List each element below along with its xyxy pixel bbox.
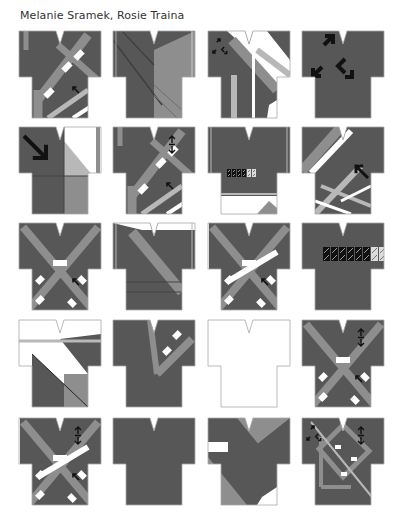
garment-14 (112, 319, 196, 409)
caption-authors: Melanie Sramek, Rosie Traina (20, 9, 184, 22)
garment-15 (207, 319, 291, 409)
garment-16-illustration (301, 319, 385, 409)
garment-14-illustration (112, 319, 196, 409)
garment-17-illustration (18, 417, 102, 507)
garment-7 (207, 126, 291, 216)
garment-13 (18, 319, 102, 409)
garment-7-illustration (207, 126, 291, 216)
garment-5-illustration (18, 126, 102, 216)
garment-6-illustration (112, 126, 196, 216)
garment-8 (301, 126, 385, 216)
garment-10-illustration (112, 222, 196, 312)
garment-2-illustration (112, 30, 196, 120)
garment-16 (301, 319, 385, 409)
garment-4-illustration (301, 30, 385, 120)
garment-20 (301, 417, 385, 507)
garment-18 (112, 417, 196, 507)
garment-5 (18, 126, 102, 216)
garment-6 (112, 126, 196, 216)
garment-12 (301, 222, 385, 312)
garment-11 (207, 222, 291, 312)
garment-10 (112, 222, 196, 312)
garment-8-illustration (301, 126, 385, 216)
garment-17 (18, 417, 102, 507)
garment-13-illustration (18, 319, 102, 409)
garment-2 (112, 30, 196, 120)
garment-9-illustration (18, 222, 102, 312)
garment-12-illustration (301, 222, 385, 312)
garment-3-illustration (207, 30, 291, 120)
garment-4 (301, 30, 385, 120)
garment-1-illustration (18, 30, 102, 120)
garment-9 (18, 222, 102, 312)
garment-11-illustration (207, 222, 291, 312)
garment-20-illustration (301, 417, 385, 507)
garment-19 (207, 417, 291, 507)
garment-1 (18, 30, 102, 120)
garment-15-illustration (207, 319, 291, 409)
garment-18-illustration (112, 417, 196, 507)
garment-19-illustration (207, 417, 291, 507)
garment-3 (207, 30, 291, 120)
